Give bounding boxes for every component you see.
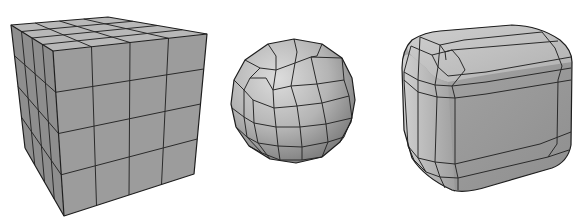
spherified-cube [231, 39, 355, 163]
subdivided-cube [11, 17, 207, 216]
mesh-figure: Three polygon mesh models shown side by … [0, 0, 582, 223]
rounded-cube [402, 25, 572, 192]
mesh-canvas [0, 0, 582, 223]
